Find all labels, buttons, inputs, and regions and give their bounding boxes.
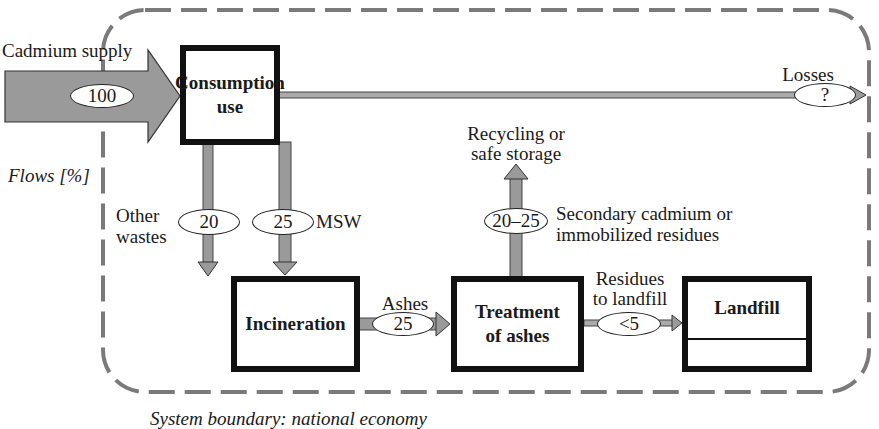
residues-label-2: to landfill (578, 288, 682, 309)
landfill-label: Landfill (714, 296, 779, 320)
msw-arrow (279, 142, 291, 264)
residues-label-1: Residues (578, 268, 682, 289)
node-consumption-use: Consumption use (180, 45, 280, 145)
ashes-value: 25 (372, 312, 434, 336)
other-wastes-value: 20 (178, 209, 240, 235)
supply-label: Cadmium supply (2, 40, 132, 61)
msw-label: MSW (316, 211, 361, 232)
secondary-cadmium-label-2: immobilized residues (556, 224, 719, 245)
treatment-line2: of ashes (486, 324, 550, 348)
landfill-divider (688, 338, 806, 340)
other-wastes-label-2: wastes (116, 226, 167, 247)
flows-unit-label: Flows [%] (8, 165, 90, 186)
recycling-value: 20–25 (484, 208, 548, 234)
supply-value: 100 (70, 84, 134, 108)
losses-arrow (277, 92, 852, 98)
ashes-label: Ashes (375, 293, 435, 314)
recycling-label-2: safe storage (456, 143, 576, 164)
recycling-label-1: Recycling or (456, 123, 576, 144)
node-treatment-of-ashes: Treatment of ashes (451, 276, 584, 372)
other-wastes-arrow (203, 142, 213, 264)
other-wastes-label-1: Other (116, 205, 159, 226)
losses-value: ? (794, 83, 856, 107)
consumption-line2: use (217, 95, 243, 119)
treatment-line1: Treatment (475, 300, 560, 324)
node-landfill: Landfill (682, 276, 812, 372)
msw-value: 25 (252, 209, 314, 235)
node-incineration: Incineration (231, 276, 360, 372)
secondary-cadmium-label-1: Secondary cadmium or (556, 203, 732, 224)
system-boundary-caption: System boundary: national economy (150, 408, 427, 429)
consumption-line1: Consumption (175, 71, 285, 95)
losses-label: Losses (768, 64, 848, 85)
residues-value: <5 (597, 312, 661, 336)
